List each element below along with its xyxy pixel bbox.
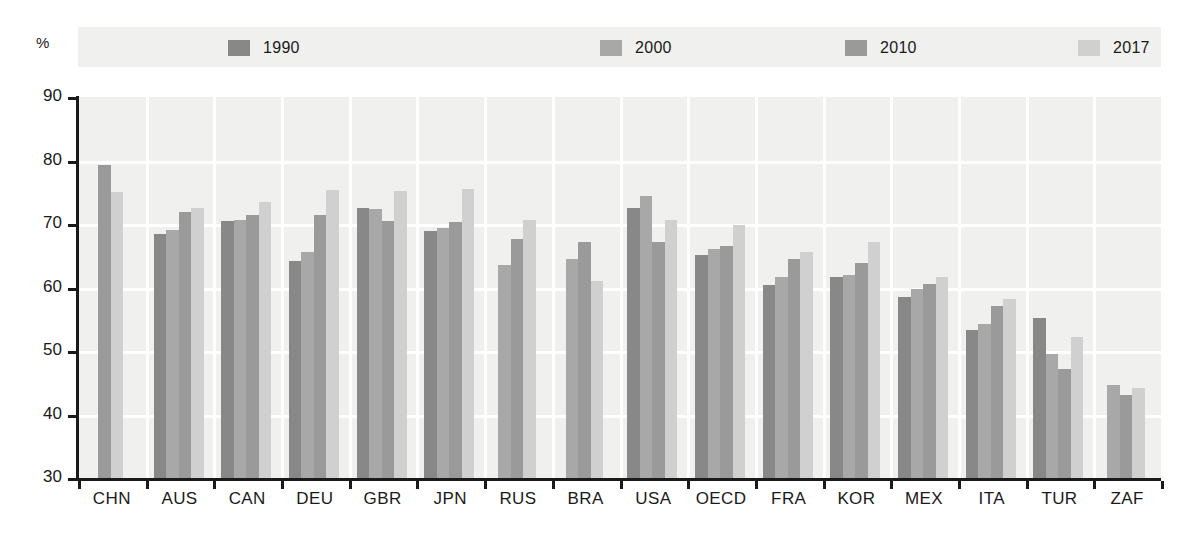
vertical-gridline-GBR: [349, 97, 352, 478]
legend-swatch-2000: [600, 40, 622, 56]
bar-TUR-2017: [1071, 337, 1084, 478]
bar-KOR-2010: [855, 263, 868, 478]
bar-ITA-2000: [978, 324, 991, 478]
bar-CHN-2017: [111, 192, 124, 478]
vertical-gridline-USA: [620, 97, 623, 478]
legend-item-2017[interactable]: 2017: [1078, 39, 1150, 57]
plot-area: [78, 97, 1161, 478]
y-tick-90: [68, 97, 77, 100]
x-axis-label-ITA: ITA: [958, 489, 1026, 509]
bar-ZAF-2000: [1107, 385, 1120, 478]
bar-KOR-2000: [843, 275, 856, 478]
x-axis-label-CAN: CAN: [213, 489, 281, 509]
x-tick-KOR: [890, 481, 893, 489]
legend-item-2010[interactable]: 2010: [845, 39, 917, 57]
bar-KOR-1990: [830, 277, 843, 478]
bar-JPN-2010: [449, 222, 462, 478]
x-axis-line: [76, 478, 1161, 481]
bar-AUS-2010: [179, 212, 192, 478]
bar-RUS-2017: [523, 220, 536, 478]
bar-RUS-2010: [511, 239, 524, 478]
y-tick-label-90: 90: [16, 86, 62, 106]
bar-GBR-2017: [394, 191, 407, 478]
vertical-gridline-MEX: [890, 97, 893, 478]
vertical-gridline-FRA: [755, 97, 758, 478]
bar-GBR-1990: [357, 208, 370, 479]
bar-ITA-2017: [1003, 299, 1016, 478]
bar-AUS-1990: [154, 234, 167, 478]
legend-item-2000[interactable]: 2000: [600, 39, 672, 57]
x-tick-AUS: [213, 481, 216, 489]
bar-OECD-2000: [708, 249, 721, 478]
x-axis-label-CHN: CHN: [78, 489, 146, 509]
bar-ITA-2010: [991, 306, 1004, 478]
x-tick-BRA: [620, 481, 623, 489]
bar-AUS-2000: [166, 230, 179, 478]
vertical-gridline-AUS: [146, 97, 149, 478]
bar-KOR-2017: [868, 242, 881, 478]
y-tick-50: [68, 351, 77, 354]
legend-label-2000: 2000: [635, 39, 672, 57]
x-tick-ITA: [1026, 481, 1029, 489]
x-axis-label-GBR: GBR: [349, 489, 417, 509]
y-tick-40: [68, 415, 77, 418]
legend-swatch-1990: [228, 40, 250, 56]
bar-USA-2017: [665, 220, 678, 478]
vertical-gridline-ZAF: [1093, 97, 1096, 478]
bar-CAN-2000: [234, 220, 247, 478]
bar-OECD-2010: [720, 246, 733, 478]
vertical-gridline-RUS: [484, 97, 487, 478]
vertical-gridline-BRA: [552, 97, 555, 478]
bar-FRA-1990: [763, 285, 776, 478]
x-axis-label-MEX: MEX: [890, 489, 958, 509]
x-axis-label-AUS: AUS: [146, 489, 214, 509]
y-tick-80: [68, 161, 77, 164]
x-tick-OECD: [755, 481, 758, 489]
bar-JPN-1990: [424, 231, 437, 478]
vertical-gridline-CAN: [213, 97, 216, 478]
x-tick-CHN: [146, 481, 149, 489]
x-tick-CAN: [281, 481, 284, 489]
bar-USA-2000: [640, 196, 653, 478]
y-tick-label-70: 70: [16, 213, 62, 233]
legend-label-1990: 1990: [263, 39, 300, 57]
bar-GBR-2000: [369, 209, 382, 478]
bar-DEU-1990: [289, 261, 302, 478]
bar-USA-2010: [652, 242, 665, 478]
x-tick-USA: [687, 481, 690, 489]
chart-legend: 1990200020102017: [78, 27, 1161, 67]
legend-item-1990[interactable]: 1990: [228, 39, 300, 57]
vertical-gridline-ITA: [958, 97, 961, 478]
vertical-gridline-OECD: [687, 97, 690, 478]
chart-page: % 1990200020102017 CHNAUSCANDEUGBRJPNRUS…: [0, 0, 1180, 535]
bar-MEX-2010: [923, 284, 936, 478]
bar-BRA-2010: [578, 242, 591, 478]
y-axis-unit-label: %: [36, 34, 50, 51]
bar-DEU-2017: [326, 190, 339, 478]
bar-BRA-2000: [566, 259, 579, 478]
x-axis-label-KOR: KOR: [823, 489, 891, 509]
x-axis-label-ZAF: ZAF: [1093, 489, 1161, 509]
x-tick-TUR: [1093, 481, 1096, 489]
bar-JPN-2017: [462, 189, 475, 478]
bar-RUS-2000: [498, 265, 511, 478]
x-tick-GBR: [416, 481, 419, 489]
x-axis-label-FRA: FRA: [755, 489, 823, 509]
bar-TUR-1990: [1033, 318, 1046, 478]
bar-USA-1990: [627, 208, 640, 479]
bar-DEU-2010: [314, 215, 327, 478]
vertical-gridline-TUR: [1026, 97, 1029, 478]
x-axis-label-TUR: TUR: [1026, 489, 1094, 509]
bar-DEU-2000: [301, 252, 314, 478]
bar-JPN-2000: [437, 228, 450, 478]
bar-FRA-2000: [775, 277, 788, 478]
y-tick-60: [68, 288, 77, 291]
y-tick-label-50: 50: [16, 340, 62, 360]
x-axis-label-USA: USA: [620, 489, 688, 509]
x-axis-label-JPN: JPN: [416, 489, 484, 509]
x-tick-ZAF: [1161, 481, 1164, 489]
y-tick-label-40: 40: [16, 404, 62, 424]
bar-ITA-1990: [966, 330, 979, 478]
y-tick-label-60: 60: [16, 277, 62, 297]
vertical-gridline-DEU: [281, 97, 284, 478]
